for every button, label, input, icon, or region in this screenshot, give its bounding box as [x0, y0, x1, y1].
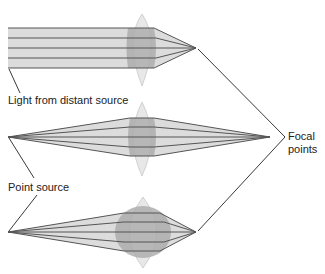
label-point-source: Point source: [8, 181, 69, 193]
lens-focusing-diagram: Light from distant source Point source F…: [0, 0, 325, 274]
panel-point-source-thick: [8, 197, 196, 268]
label-distant-source: Light from distant source: [8, 94, 128, 106]
label-focal-line2: points: [288, 143, 317, 155]
diagram-canvas: [0, 0, 325, 274]
panel-distant-source: [8, 14, 196, 86]
panel-point-source-thin: [8, 102, 270, 176]
label-focal-line1: Focal: [288, 130, 315, 142]
